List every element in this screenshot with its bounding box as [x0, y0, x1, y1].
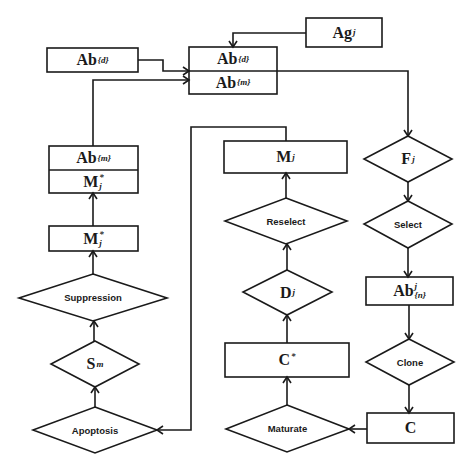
- d-j-diamond: [243, 270, 332, 315]
- m-star-j-box: [49, 226, 138, 251]
- edge-abd-to-pool: [138, 60, 189, 71]
- maturate-diamond: [226, 405, 349, 452]
- c-star-box: [225, 343, 349, 377]
- apoptosis-diamond: [33, 407, 157, 453]
- ab-d-input-box: [47, 48, 138, 72]
- node-shapes: [19, 18, 454, 453]
- ag-j-box: [306, 18, 382, 47]
- f-j-diamond: [364, 136, 452, 182]
- reselect-diamond: [225, 198, 347, 244]
- s-m-diamond: [51, 341, 139, 387]
- clone-diamond: [366, 339, 454, 385]
- edge-memory-to-pool: [93, 80, 189, 146]
- c-box: [367, 413, 454, 443]
- ab-n-j-box: [366, 277, 453, 305]
- select-diamond: [364, 201, 452, 248]
- edge-ag-to-pool: [233, 33, 306, 47]
- m-j-box: [224, 141, 347, 173]
- suppression-diamond: [19, 274, 167, 321]
- flowchart-canvas: [0, 0, 471, 470]
